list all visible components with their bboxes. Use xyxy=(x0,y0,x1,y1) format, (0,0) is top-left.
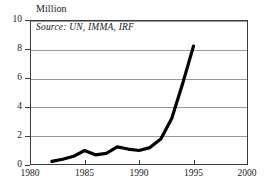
x-tick-label-1995: 1995 xyxy=(177,168,211,178)
x-tick-label-1985: 1985 xyxy=(68,168,102,178)
y-tick-label-2: 2 xyxy=(2,130,22,140)
y-tick-label-0: 0 xyxy=(2,159,22,169)
x-tick-label-1980: 1980 xyxy=(13,168,47,178)
x-tick-label-1990: 1990 xyxy=(122,168,156,178)
y-tick-label-8: 8 xyxy=(2,43,22,53)
y-axis-title: Million xyxy=(36,3,67,14)
y-tick-label-4: 4 xyxy=(2,101,22,111)
chart-container: Million Source: UN, IMMA, IRF 10 8 6 4 2… xyxy=(0,0,272,192)
y-tick-label-10: 10 xyxy=(2,14,22,24)
series-polyline xyxy=(52,46,194,161)
y-tick-label-6: 6 xyxy=(2,72,22,82)
data-series-line xyxy=(30,20,248,165)
x-tick-label-2000: 2000 xyxy=(230,168,264,178)
